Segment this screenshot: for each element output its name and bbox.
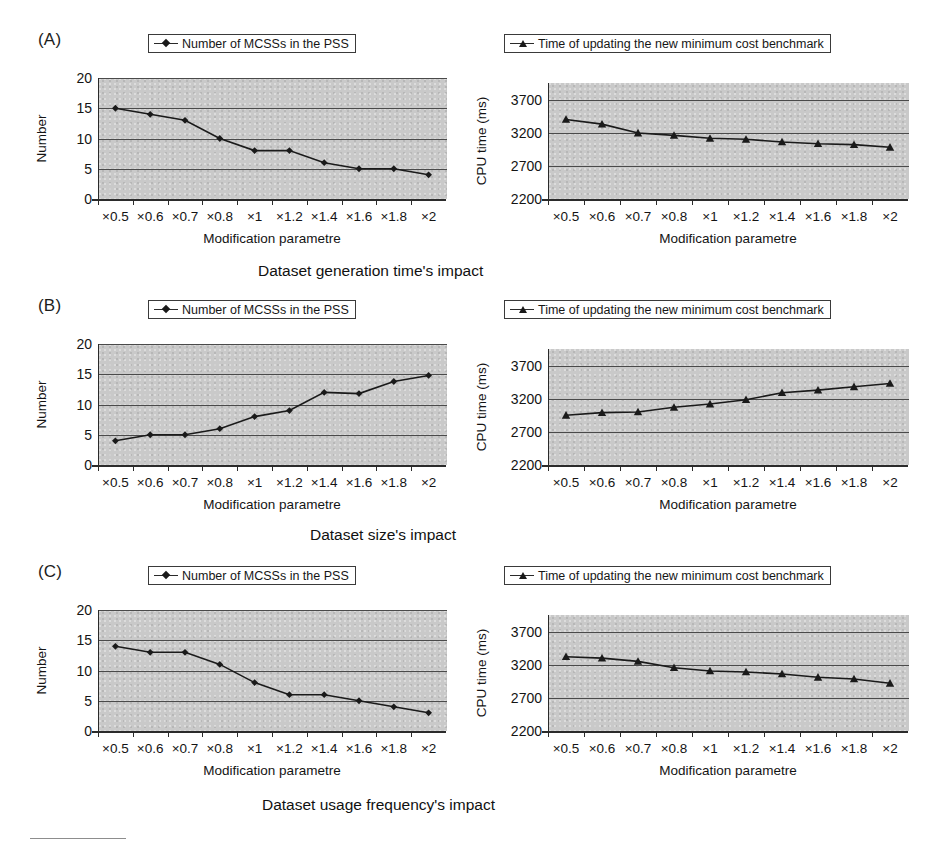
data-point-marker bbox=[321, 159, 328, 166]
data-point-marker bbox=[182, 431, 189, 438]
data-point-marker bbox=[286, 407, 293, 414]
data-point-marker bbox=[147, 111, 154, 118]
data-point-marker bbox=[390, 165, 397, 172]
triangle-marker-icon bbox=[509, 569, 535, 583]
legend-a-left: Number of MCSSs in the PSS bbox=[148, 34, 356, 53]
data-series bbox=[476, 66, 946, 276]
legend-c-right: Time of updating the new minimum cost be… bbox=[504, 566, 831, 585]
legend-label: Number of MCSSs in the PSS bbox=[182, 37, 349, 51]
data-point-marker bbox=[356, 390, 363, 397]
panel-c: (C) Number of MCSSs in the PSS Number051… bbox=[0, 554, 952, 824]
legend-b-right: Time of updating the new minimum cost be… bbox=[504, 300, 831, 319]
data-series bbox=[476, 332, 946, 542]
diamond-marker-icon bbox=[153, 303, 179, 317]
data-point-marker bbox=[286, 147, 293, 154]
bottom-rule bbox=[30, 838, 126, 839]
data-point-marker bbox=[562, 115, 570, 123]
diamond-marker-icon bbox=[153, 37, 179, 51]
data-point-marker bbox=[390, 703, 397, 710]
legend-label: Time of updating the new minimum cost be… bbox=[538, 303, 824, 317]
data-point-marker bbox=[390, 378, 397, 385]
data-point-marker bbox=[425, 171, 432, 178]
legend-label: Time of updating the new minimum cost be… bbox=[538, 569, 824, 583]
data-series bbox=[476, 598, 946, 808]
data-series bbox=[36, 598, 476, 808]
panel-caption-a: Dataset generation time's impact bbox=[258, 262, 483, 280]
legend-b-left: Number of MCSSs in the PSS bbox=[148, 300, 356, 319]
data-point-marker bbox=[356, 165, 363, 172]
data-point-marker bbox=[147, 649, 154, 656]
legend-label: Number of MCSSs in the PSS bbox=[182, 303, 349, 317]
data-point-marker bbox=[216, 135, 223, 142]
data-point-marker bbox=[286, 691, 293, 698]
data-point-marker bbox=[321, 389, 328, 396]
legend-a-right: Time of updating the new minimum cost be… bbox=[504, 34, 831, 53]
data-point-marker bbox=[112, 437, 119, 444]
triangle-marker-icon bbox=[509, 37, 535, 51]
legend-label: Number of MCSSs in the PSS bbox=[182, 569, 349, 583]
panel-letter-b: (B) bbox=[38, 296, 61, 316]
diamond-marker-icon bbox=[153, 569, 179, 583]
panel-caption-c: Dataset usage frequency's impact bbox=[262, 796, 495, 814]
triangle-marker-icon bbox=[509, 303, 535, 317]
data-point-marker bbox=[356, 697, 363, 704]
data-point-marker bbox=[112, 105, 119, 112]
data-point-marker bbox=[321, 691, 328, 698]
data-point-marker bbox=[251, 679, 258, 686]
data-point-marker bbox=[182, 117, 189, 124]
panel-letter-a: (A) bbox=[38, 30, 61, 50]
panel-letter-c: (C) bbox=[38, 562, 62, 582]
data-point-marker bbox=[251, 413, 258, 420]
legend-c-left: Number of MCSSs in the PSS bbox=[148, 566, 356, 585]
data-point-marker bbox=[425, 709, 432, 716]
data-point-marker bbox=[425, 372, 432, 379]
data-point-marker bbox=[147, 431, 154, 438]
panel-a: (A) Number of MCSSs in the PSS Number051… bbox=[0, 22, 952, 292]
data-point-marker bbox=[112, 643, 119, 650]
data-point-marker bbox=[216, 425, 223, 432]
data-point-marker bbox=[251, 147, 258, 154]
data-point-marker bbox=[216, 661, 223, 668]
data-series bbox=[36, 66, 476, 276]
figure-root: (A) Number of MCSSs in the PSS Number051… bbox=[0, 0, 952, 844]
legend-label: Time of updating the new minimum cost be… bbox=[538, 37, 824, 51]
panel-caption-b: Dataset size's impact bbox=[310, 526, 456, 544]
data-series bbox=[36, 332, 476, 542]
panel-b: (B) Number of MCSSs in the PSS Number051… bbox=[0, 288, 952, 558]
data-point-marker bbox=[182, 649, 189, 656]
